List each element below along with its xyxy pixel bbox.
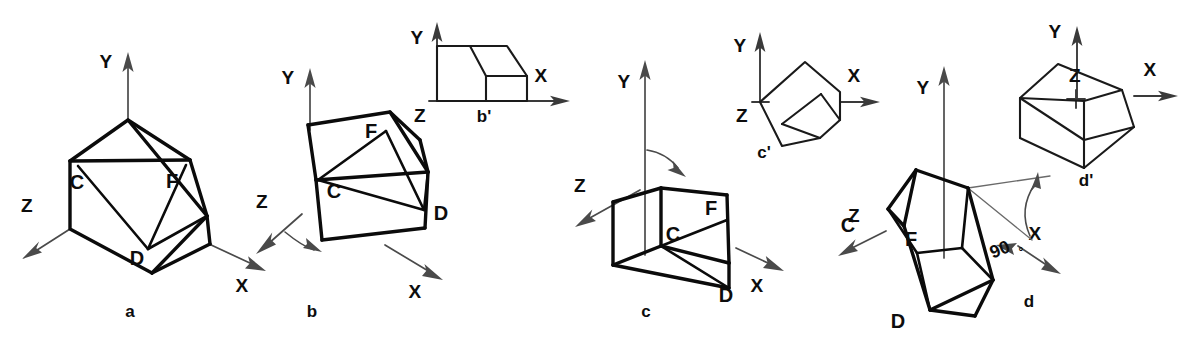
panel-c-z-axis-label: Z — [574, 175, 586, 196]
panel-a-vertex-label-f: F — [166, 170, 178, 192]
panel-b-y-axis-label: Y — [282, 67, 295, 88]
panel-d-prime-y-axis-label: Y — [1049, 21, 1062, 42]
panel-d-caption: d — [1024, 292, 1034, 311]
panel-b-prime-y-axis-label: Y — [411, 27, 424, 48]
panel-b-x-axis-label: X — [409, 281, 422, 302]
panel-b-caption: b — [307, 302, 317, 321]
panel-c-vertex-label-c: C — [666, 223, 680, 245]
panel-d-prime-caption: d' — [1079, 171, 1093, 190]
panel-c-prime-caption: c' — [757, 143, 771, 162]
panel-c-prime-y-axis-label: Y — [734, 35, 747, 56]
panel-d-vertex-label-c: C — [841, 214, 855, 236]
panel-c-vertex-label-d: D — [719, 284, 733, 306]
panel-c-prime-z-axis-label: Z — [736, 105, 748, 126]
panel-c-y-axis-label: Y — [618, 71, 631, 92]
panel-a-caption: a — [125, 302, 135, 321]
panel-d-prime-x-axis-label: X — [1144, 59, 1157, 80]
panel-a-y-axis-label: Y — [100, 51, 113, 72]
panel-a-z-axis-label: Z — [21, 195, 33, 216]
panel-b-prime-z-axis-label: Z — [414, 105, 426, 126]
panel-b-prime-x-axis-label: X — [535, 65, 548, 86]
panel-d-y-axis-label: Y — [917, 77, 930, 98]
panel-a-top-front-edge — [70, 160, 190, 161]
panel-c-vertex-label-f: F — [705, 197, 717, 219]
panel-b-vertex-label-c: C — [327, 180, 341, 202]
panel-c-caption: c — [641, 302, 650, 321]
panel-b-vertex-label-d: D — [434, 202, 448, 224]
drawing-canvas: Y Z X — [0, 0, 1193, 346]
panel-b-z-axis-label: Z — [256, 191, 268, 212]
panel-b-prime-caption: b' — [477, 107, 491, 126]
technical-drawing-figure: Y Z X — [0, 0, 1193, 346]
panel-d-vertex-label-d: D — [891, 310, 905, 332]
panel-a-vertex-label-d: D — [130, 247, 144, 269]
panel-a-x-axis-label: X — [236, 275, 249, 296]
panel-d-angle-degree-symbol: ° — [1019, 245, 1024, 259]
panel-d-vertex-label-f: F — [905, 228, 917, 250]
panel-c-right-vertical — [727, 195, 729, 263]
panel-c-prime-x-axis-label: X — [848, 65, 861, 86]
panel-d-x-axis-label: X — [1029, 223, 1042, 244]
panel-a-vertex-label-c: C — [70, 171, 84, 193]
panel-b-vertex-label-f: F — [365, 120, 377, 142]
sheet-background — [0, 0, 1193, 346]
panel-c-x-axis-label: X — [751, 275, 764, 296]
